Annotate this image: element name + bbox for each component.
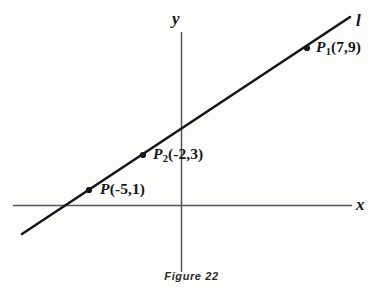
point-label-p1-variable: P — [316, 38, 326, 55]
line-l — [22, 17, 350, 234]
line-label-l: l — [356, 12, 361, 29]
point-label-p1-coordinates: (7,9) — [331, 38, 361, 55]
point-marker-p — [86, 187, 92, 193]
point-label-p-variable: P — [100, 180, 110, 197]
point-label-p2-variable: P — [153, 145, 163, 162]
y-axis-label: y — [172, 10, 180, 27]
point-label-p2: P2(-2,3) — [153, 146, 203, 164]
point-label-p-coordinates: (-5,1) — [110, 180, 145, 197]
figure-22-container: y x l P1(7,9) P2(-2,3) P(-5,1) Figure 22 — [0, 0, 383, 295]
point-marker-p2 — [140, 152, 146, 158]
point-marker-p1 — [304, 45, 310, 51]
x-axis-label: x — [356, 196, 365, 213]
figure-caption: Figure 22 — [0, 270, 383, 282]
point-label-p2-coordinates: (-2,3) — [168, 145, 203, 162]
point-label-p1: P1(7,9) — [316, 39, 361, 57]
point-label-p: P(-5,1) — [100, 181, 145, 199]
